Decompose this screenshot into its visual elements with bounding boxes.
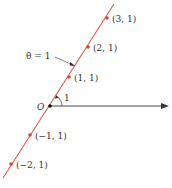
leader-arrow-icon: [70, 62, 76, 66]
point-label: (1, 1): [74, 73, 98, 83]
angle-label: 1: [64, 93, 70, 103]
point-r3: [105, 16, 109, 20]
point-r2: [86, 45, 90, 49]
polar-diagram: 1 O θ = 1 (3, 1) (2, 1) (1, 1) (−1, 1) (…: [0, 0, 172, 188]
theta-label: θ = 1: [26, 51, 50, 61]
point-rneg2: [9, 162, 13, 166]
point-r1: [67, 75, 71, 79]
point-label: (−2, 1): [16, 160, 48, 170]
point-label: (2, 1): [93, 43, 117, 53]
theta-line: [3, 4, 114, 178]
origin-point: [48, 104, 52, 108]
arrowhead-icon: [161, 103, 169, 109]
point-label: (−1, 1): [35, 131, 67, 141]
origin-label: O: [37, 102, 45, 112]
point-label: (3, 1): [112, 14, 136, 24]
point-rneg1: [28, 133, 32, 137]
